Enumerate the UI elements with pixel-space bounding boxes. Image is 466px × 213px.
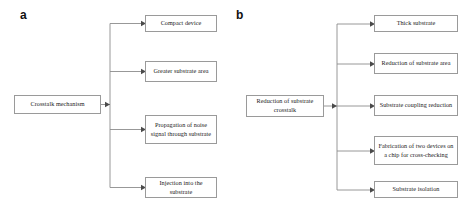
node-b-child-5[interactable]: Substrate isolation: [374, 181, 458, 198]
figure-flowchart: a Crosstalk mechanism Compact device G: [0, 0, 466, 213]
node-a-root[interactable]: Crosstalk mechanism: [14, 95, 101, 114]
panel-b: b Reduction of substrate crosstalk Thick: [233, 0, 466, 213]
node-a-child-1[interactable]: Compact device: [145, 15, 217, 32]
node-b-child-4[interactable]: Fabrication of two devices on a chip for…: [374, 136, 458, 165]
node-b-root[interactable]: Reduction of substrate crosstalk: [246, 95, 324, 117]
node-b-child-3[interactable]: Substrate coupling reduction: [374, 95, 458, 116]
panel-a: a Crosstalk mechanism Compact device G: [0, 0, 233, 213]
node-b-child-2[interactable]: Reduction of substrate area: [374, 53, 458, 74]
node-b-child-1[interactable]: Thick substrate: [374, 15, 458, 32]
node-a-child-2[interactable]: Greater substrate area: [145, 61, 217, 82]
node-a-child-4[interactable]: Injection into the substrate: [145, 177, 217, 198]
node-a-child-3[interactable]: Propagation of noise signal through subs…: [145, 115, 217, 144]
